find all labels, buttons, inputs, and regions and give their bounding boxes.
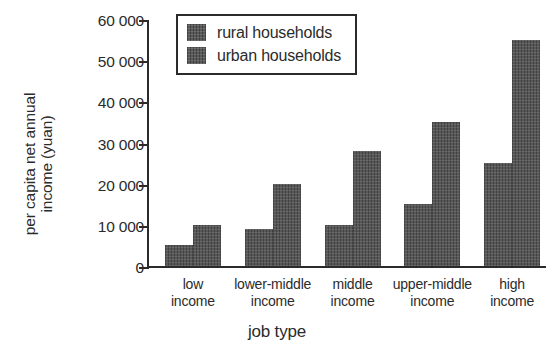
x-axis-category-label-line: income (171, 293, 215, 310)
y-axis-tick-label: 50 000 (98, 53, 144, 71)
bar-group (245, 184, 301, 266)
legend-swatch-urban-icon (187, 47, 206, 64)
x-axis-category-label: lower-middleincome (234, 276, 311, 310)
x-axis-category-label: upper-middleincome (393, 276, 472, 310)
bar-group (325, 151, 381, 266)
y-axis-title-line-2: income (yuan) (38, 116, 55, 213)
legend-label-urban: urban households (217, 47, 341, 65)
x-axis-category-label-line: low (171, 276, 215, 293)
bar-urban (353, 151, 381, 266)
legend-swatch-rural-icon (187, 24, 206, 41)
y-axis-tick-mark (139, 20, 148, 22)
bar-group (404, 122, 460, 266)
x-axis-category-label-line: income (234, 293, 311, 310)
bar-chart: per capita net annual income (yuan) 010 … (0, 0, 554, 356)
bar-urban (512, 40, 540, 266)
x-axis-category-label: highincome (490, 276, 534, 310)
y-axis-tick-labels: 010 00020 00030 00040 00050 00060 000 (56, 20, 144, 268)
x-axis-category-label-line: high (490, 276, 534, 293)
x-axis-category-label-line: lower-middle (234, 276, 311, 293)
bar-group (165, 225, 221, 266)
y-axis-tick-mark (139, 102, 148, 104)
y-axis-tick-label: 30 000 (98, 136, 144, 154)
bar-urban (432, 122, 460, 266)
y-axis-tick-mark (139, 185, 148, 187)
x-axis-category-labels: lowincomelower-middleincomemiddleincomeu… (149, 276, 548, 316)
bar-urban (273, 184, 301, 266)
bar-rural (245, 229, 273, 266)
x-axis-category-label-line: income (331, 293, 375, 310)
y-axis-tick-mark (139, 144, 148, 146)
legend-entry-rural: rural households (187, 21, 341, 44)
y-axis-tick-label: 40 000 (98, 94, 144, 112)
y-axis-tick-mark (139, 226, 148, 228)
bar-rural (325, 225, 353, 266)
y-axis-tick-label: 60 000 (98, 12, 144, 30)
y-axis-tick-mark (139, 267, 148, 269)
x-axis-line (147, 266, 546, 268)
y-axis-tick-mark (139, 61, 148, 63)
legend-label-rural: rural households (217, 24, 332, 42)
x-axis-category-label-line: upper-middle (393, 276, 472, 293)
x-axis-title: job type (0, 322, 554, 342)
legend: rural households urban households (176, 14, 357, 75)
bar-urban (193, 225, 221, 266)
x-axis-category-label: lowincome (171, 276, 215, 310)
y-axis-title-line-1: per capita net annual (21, 93, 38, 236)
bar-rural (404, 204, 432, 266)
x-axis-category-label-line: income (393, 293, 472, 310)
x-axis-category-label-line: middle (331, 276, 375, 293)
bar-group (484, 40, 540, 266)
y-axis-tick-label: 20 000 (98, 177, 144, 195)
x-axis-category-label-line: income (490, 293, 534, 310)
legend-entry-urban: urban households (187, 44, 341, 67)
y-axis-tick-label: 10 000 (98, 218, 144, 236)
bar-rural (165, 245, 193, 266)
y-axis-title: per capita net annual income (yuan) (16, 34, 60, 294)
x-axis-category-label: middleincome (331, 276, 375, 310)
bar-rural (484, 163, 512, 266)
